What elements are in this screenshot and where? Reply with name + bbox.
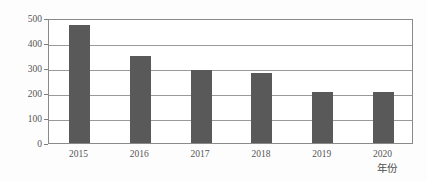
bar	[251, 73, 272, 143]
gridline	[49, 120, 412, 121]
bar	[69, 25, 90, 143]
y-tick-label: 200	[0, 88, 48, 100]
x-tick-label: 2018	[231, 148, 291, 161]
y-tick-mark	[44, 144, 48, 145]
bar	[130, 56, 151, 143]
x-axis-title: 年份	[364, 162, 410, 176]
gridline	[49, 45, 412, 46]
gridline	[49, 95, 412, 96]
plot-area	[48, 19, 413, 144]
y-tick-label: 400	[0, 38, 48, 50]
y-tick-label: 300	[0, 63, 48, 75]
y-tick-label: 0	[0, 138, 48, 150]
bar	[373, 92, 394, 143]
bar-chart: 供水量/万 m3 0100200300400500 20152016201720…	[0, 0, 427, 181]
x-tick-label: 2015	[48, 148, 108, 161]
x-tick-label: 2016	[109, 148, 169, 161]
x-tick-label: 2020	[353, 148, 413, 161]
bar	[312, 92, 333, 143]
gridline	[49, 70, 412, 71]
x-tick-label: 2017	[170, 148, 230, 161]
y-tick-label: 100	[0, 113, 48, 125]
x-tick-label: 2019	[292, 148, 352, 161]
bar	[191, 70, 212, 143]
y-tick-label: 500	[0, 13, 48, 25]
